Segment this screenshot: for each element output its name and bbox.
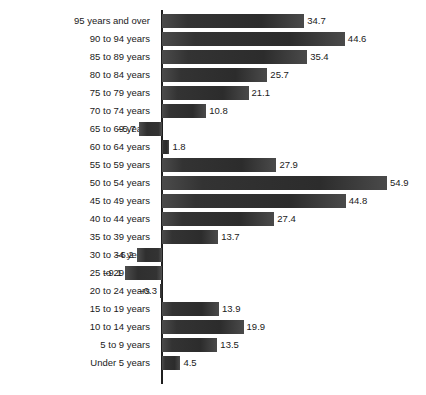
bar-row: 35 to 39 years13.7 — [0, 228, 426, 246]
bar-row: 5 to 9 years13.5 — [0, 336, 426, 354]
bar-row: 85 to 89 years35.4 — [0, 48, 426, 66]
value-label: 25.7 — [270, 66, 289, 84]
value-label: 54.9 — [390, 174, 409, 192]
value-label: 44.6 — [348, 30, 367, 48]
bar-row: Under 5 years4.5 — [0, 354, 426, 372]
value-label: 10.8 — [209, 102, 228, 120]
bar-row: 70 to 74 years10.8 — [0, 102, 426, 120]
category-label: 90 to 94 years — [0, 30, 150, 48]
category-label: 60 to 64 years — [0, 138, 150, 156]
bar — [162, 194, 346, 208]
value-label: 13.5 — [220, 336, 239, 354]
category-label: 55 to 59 years — [0, 156, 150, 174]
category-label: 5 to 9 years — [0, 336, 150, 354]
bar — [162, 176, 387, 190]
value-label: –5.7 — [117, 120, 136, 138]
bar-row: 95 years and over34.7 — [0, 12, 426, 30]
category-label: 15 to 19 years — [0, 300, 150, 318]
category-label: 40 to 44 years — [0, 210, 150, 228]
bar — [162, 338, 217, 352]
value-label: 19.9 — [247, 318, 266, 336]
bar-row: 15 to 19 years13.9 — [0, 300, 426, 318]
value-label: 27.4 — [277, 210, 296, 228]
bar-row: 65 to 69 years–5.7 — [0, 120, 426, 138]
bar-row: 40 to 44 years27.4 — [0, 210, 426, 228]
bar-row: 55 to 59 years27.9 — [0, 156, 426, 174]
category-label: 70 to 74 years — [0, 102, 150, 120]
category-label: 45 to 49 years — [0, 192, 150, 210]
bar — [160, 284, 162, 298]
bar — [162, 140, 169, 154]
bar — [162, 212, 274, 226]
bar-row: 10 to 14 years19.9 — [0, 318, 426, 336]
bar-row: 30 to 34 years–6.2 — [0, 246, 426, 264]
value-label: 13.9 — [222, 300, 241, 318]
bar — [162, 86, 249, 100]
category-label: 75 to 79 years — [0, 84, 150, 102]
population-change-bar-chart: 95 years and over34.790 to 94 years44.68… — [0, 0, 426, 395]
bar — [139, 122, 162, 136]
category-label: 20 to 24 years — [0, 282, 150, 300]
bar — [137, 248, 162, 262]
bar-row: 80 to 84 years25.7 — [0, 66, 426, 84]
bar-row: 75 to 79 years21.1 — [0, 84, 426, 102]
bar-row: 60 to 64 years1.8 — [0, 138, 426, 156]
value-label: 34.7 — [307, 12, 326, 30]
bar — [162, 14, 304, 28]
category-label: Under 5 years — [0, 354, 150, 372]
bar-row: 20 to 24 years–0.3 — [0, 282, 426, 300]
bar — [162, 356, 180, 370]
value-label: –6.2 — [115, 246, 134, 264]
category-label: 95 years and over — [0, 12, 150, 30]
bar-row: 45 to 49 years44.8 — [0, 192, 426, 210]
value-label: –0.3 — [139, 282, 158, 300]
value-label: 4.5 — [183, 354, 196, 372]
value-label: 21.1 — [252, 84, 271, 102]
category-label: 80 to 84 years — [0, 66, 150, 84]
bar-row: 25 to 29 years–9.1 — [0, 264, 426, 282]
bar-row: 50 to 54 years54.9 — [0, 174, 426, 192]
bar — [125, 266, 162, 280]
bar — [162, 32, 345, 46]
value-label: 27.9 — [279, 156, 298, 174]
value-label: 44.8 — [349, 192, 368, 210]
bar — [162, 320, 244, 334]
category-label: 10 to 14 years — [0, 318, 150, 336]
value-label: 35.4 — [310, 48, 329, 66]
value-label: 13.7 — [221, 228, 240, 246]
bar — [162, 68, 267, 82]
value-label: –9.1 — [103, 264, 122, 282]
category-label: 35 to 39 years — [0, 228, 150, 246]
bar — [162, 104, 206, 118]
bar — [162, 158, 276, 172]
bar — [162, 50, 307, 64]
chart-caption — [0, 388, 426, 395]
category-label: 50 to 54 years — [0, 174, 150, 192]
bar-row: 90 to 94 years44.6 — [0, 30, 426, 48]
bar — [162, 230, 218, 244]
value-label: 1.8 — [172, 138, 185, 156]
bar — [162, 302, 219, 316]
category-label: 85 to 89 years — [0, 48, 150, 66]
